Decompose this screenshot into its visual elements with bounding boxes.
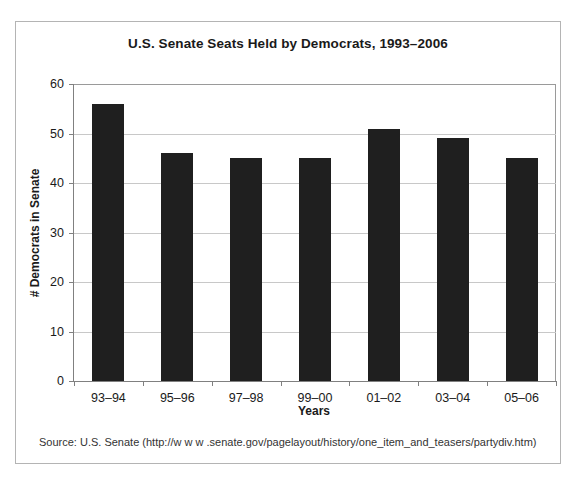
y-tick-mark <box>69 233 74 234</box>
x-tick-mark <box>556 381 557 386</box>
bar <box>368 129 400 381</box>
y-tick-mark <box>69 134 74 135</box>
y-tick-label: 20 <box>50 275 64 289</box>
y-axis-title-text: # Democrats in Senate <box>28 168 42 297</box>
y-tick-mark <box>69 282 74 283</box>
x-tick-mark <box>281 381 282 386</box>
x-tick-label: 03–04 <box>435 391 470 405</box>
x-tick-label: 05–06 <box>504 391 539 405</box>
bar <box>92 104 124 381</box>
gridline <box>74 134 556 135</box>
x-tick-label: 01–02 <box>366 391 401 405</box>
y-tick-label: 60 <box>50 77 64 91</box>
x-tick-mark <box>212 381 213 386</box>
plot-frame-top <box>74 84 556 85</box>
y-tick-label: 50 <box>50 127 64 141</box>
x-axis-title: Years <box>73 404 555 418</box>
bar <box>506 158 538 381</box>
y-tick-mark <box>69 183 74 184</box>
x-tick-mark <box>487 381 488 386</box>
x-tick-mark <box>349 381 350 386</box>
x-tick-label: 95–96 <box>160 391 195 405</box>
y-tick-label: 30 <box>50 226 64 240</box>
chart-figure: U.S. Senate Seats Held by Democrats, 199… <box>15 21 561 464</box>
x-tick-label: 99–00 <box>298 391 333 405</box>
bar <box>161 153 193 381</box>
y-tick-mark <box>69 84 74 85</box>
source-note: Source: U.S. Senate (http://w w w .senat… <box>39 436 537 448</box>
y-tick-label: 40 <box>50 176 64 190</box>
x-tick-label: 97–98 <box>229 391 264 405</box>
y-tick-label: 0 <box>57 374 64 388</box>
y-tick-label: 10 <box>50 325 64 339</box>
bar <box>230 158 262 381</box>
plot-area: 0102030405060 93–9495–9697–9899–0001–020… <box>73 84 556 382</box>
bar <box>299 158 331 381</box>
x-tick-mark <box>74 381 75 386</box>
bar <box>437 138 469 381</box>
x-tick-label: 93–94 <box>91 391 126 405</box>
x-tick-mark <box>418 381 419 386</box>
x-tick-mark <box>143 381 144 386</box>
chart-title: U.S. Senate Seats Held by Democrats, 199… <box>16 36 560 51</box>
y-tick-mark <box>69 332 74 333</box>
y-axis-title: # Democrats in Senate <box>26 84 44 381</box>
